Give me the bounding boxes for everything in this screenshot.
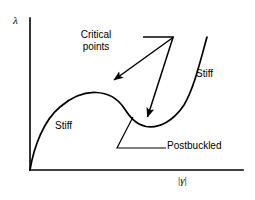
buckling-diagram-figure: λ |γ| Criticalpoints Stiff Stiff Postbuc… bbox=[0, 0, 255, 200]
y-axis-label: λ bbox=[13, 15, 18, 27]
critical-points-label-line2: points bbox=[83, 41, 110, 52]
diagram-canvas bbox=[0, 0, 255, 200]
postbuckled-leader-line bbox=[117, 117, 166, 148]
critical-points-label-line1: Critical bbox=[81, 29, 112, 40]
stiff-label-right: Stiff bbox=[196, 68, 213, 80]
postbuckled-leader-group bbox=[117, 117, 166, 148]
x-axis-label: |γ| bbox=[178, 175, 187, 187]
postbuckled-label: Postbuckled bbox=[167, 140, 221, 152]
critical-points-arrow-to-trough bbox=[148, 38, 174, 118]
x-axis-label-bar-right: | bbox=[185, 174, 187, 186]
stiff-label-left: Stiff bbox=[55, 120, 72, 132]
critical-points-label: Criticalpoints bbox=[68, 29, 124, 52]
